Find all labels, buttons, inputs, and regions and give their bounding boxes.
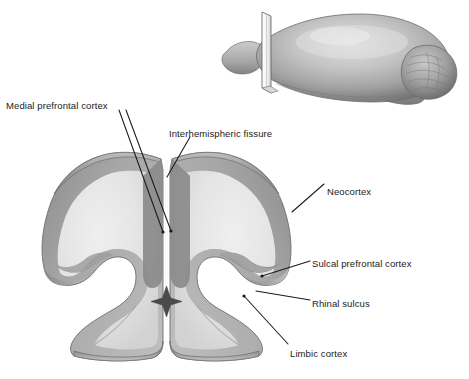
label-sulcal-prefrontal-cortex: Sulcal prefrontal cortex <box>312 258 412 269</box>
leader-interhemispheric <box>167 137 190 177</box>
label-neocortex: Neocortex <box>327 186 371 197</box>
leader-rhinal-sulcus <box>256 291 310 300</box>
leader-limbic-cortex <box>244 296 288 344</box>
leader-medial-prefrontal-b <box>126 110 171 231</box>
leader-endpoint-dots <box>161 229 263 297</box>
leader-medial-prefrontal-a <box>119 110 163 232</box>
label-interhemispheric-fissure: Interhemispheric fissure <box>169 128 272 139</box>
leader-lines <box>0 0 469 379</box>
label-limbic-cortex: Limbic cortex <box>290 348 347 359</box>
leader-sulcal-prefrontal <box>262 261 310 276</box>
brain-section-figure: Medial prefrontal cortex Interhemispheri… <box>0 0 469 379</box>
label-rhinal-sulcus: Rhinal sulcus <box>312 298 370 309</box>
label-medial-prefrontal-cortex: Medial prefrontal cortex <box>6 100 108 111</box>
leader-neocortex <box>292 184 324 212</box>
